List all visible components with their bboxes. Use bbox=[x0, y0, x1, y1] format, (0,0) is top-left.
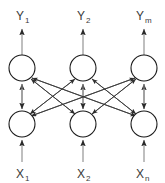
output-layer-nodes bbox=[9, 55, 157, 81]
node-x1[interactable] bbox=[9, 111, 35, 137]
label-x2-base: X bbox=[77, 167, 85, 181]
label-y1-sub: 1 bbox=[25, 16, 30, 25]
output-labels: Y 1 Y 2 Y m bbox=[16, 9, 152, 25]
label-y2-sub: 2 bbox=[86, 16, 91, 25]
node-y1[interactable] bbox=[9, 55, 35, 81]
node-x2[interactable] bbox=[70, 111, 96, 137]
label-x1-base: X bbox=[16, 167, 24, 181]
external-output-arrows bbox=[22, 29, 144, 55]
input-labels: X 1 X 2 X n bbox=[16, 167, 149, 183]
node-y2[interactable] bbox=[70, 55, 96, 81]
cross-connections bbox=[30, 78, 136, 116]
label-x1-sub: 1 bbox=[25, 174, 30, 183]
bam-network-diagram: Y 1 Y 2 Y m X 1 X 2 X n bbox=[0, 0, 165, 183]
label-xn-sub: n bbox=[145, 174, 149, 183]
label-ym-sub: m bbox=[145, 16, 152, 25]
external-input-arrows bbox=[22, 140, 144, 162]
network-canvas: Y 1 Y 2 Y m X 1 X 2 X n bbox=[0, 0, 165, 183]
label-x2-sub: 2 bbox=[86, 174, 91, 183]
label-y1-base: Y bbox=[16, 9, 24, 23]
node-xn[interactable] bbox=[131, 111, 157, 137]
label-y2-base: Y bbox=[77, 9, 85, 23]
label-xn-base: X bbox=[136, 167, 144, 181]
input-layer-nodes bbox=[9, 111, 157, 137]
node-ym[interactable] bbox=[131, 55, 157, 81]
label-ym-base: Y bbox=[136, 9, 144, 23]
